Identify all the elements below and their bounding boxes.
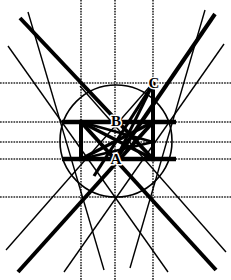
- point-label-a: A: [111, 151, 122, 167]
- vertex-dot-3: [150, 156, 155, 161]
- point-label-b: B: [111, 113, 121, 129]
- vertex-dot-1: [150, 119, 155, 124]
- vertex-dot-0: [78, 119, 83, 124]
- vertex-dot-2: [78, 156, 83, 161]
- figure-canvas: A B C: [0, 0, 231, 280]
- geometry-diagram-svg: A B C: [0, 0, 231, 280]
- point-label-c: C: [149, 75, 160, 91]
